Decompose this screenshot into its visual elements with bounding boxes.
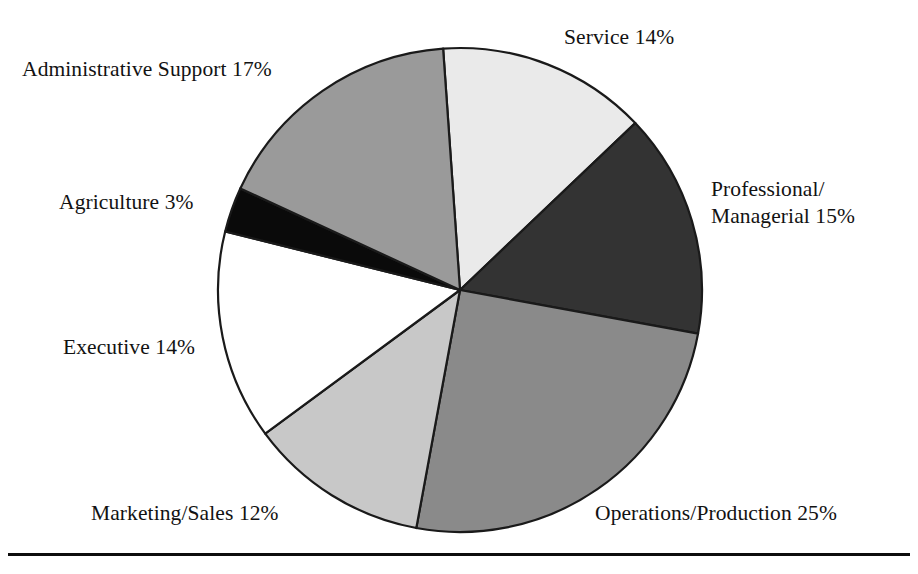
slice-label-marketing-sales: Marketing/Sales 12%: [91, 500, 279, 527]
slice-label-professional-line1: Professional/: [711, 176, 911, 203]
pie-slice-group: [218, 48, 702, 532]
slice-label-professional-managerial: Professional/ Managerial 15%: [711, 176, 911, 229]
slice-label-agriculture: Agriculture 3%: [59, 189, 194, 216]
slice-label-executive: Executive 14%: [63, 334, 195, 361]
slice-label-administrative-support: Administrative Support 17%: [22, 56, 272, 83]
slice-label-service: Service 14%: [564, 24, 674, 51]
pie-chart-figure: Administrative Support 17% Service 14% P…: [0, 0, 918, 574]
slice-label-operations-production: Operations/Production 25%: [595, 500, 837, 527]
bottom-divider-rule: [8, 553, 910, 556]
pie-slice-operations-production: [416, 290, 698, 532]
pie-chart-svg: [0, 0, 918, 574]
slice-label-professional-line2: Managerial 15%: [711, 203, 911, 230]
